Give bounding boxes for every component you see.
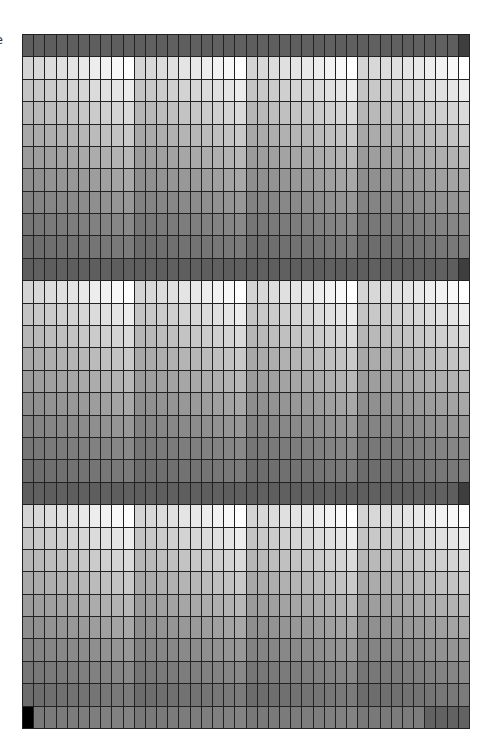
grid-cell	[191, 617, 201, 638]
grid-cell	[34, 662, 44, 683]
grid-cell	[414, 416, 424, 437]
grid-cell	[235, 35, 245, 56]
grid-cell	[403, 214, 413, 235]
grid-cell	[403, 662, 413, 683]
grid-cell	[135, 550, 145, 571]
grid-cell	[358, 617, 368, 638]
grid-cell	[436, 80, 446, 101]
grid-cell	[23, 35, 33, 56]
grid-cell	[336, 125, 346, 146]
grid-cell	[414, 617, 424, 638]
grid-cell	[213, 550, 223, 571]
grid-cell	[57, 617, 67, 638]
grid-cell	[135, 259, 145, 280]
grid-cell	[291, 371, 301, 392]
grid-cell	[157, 684, 167, 705]
grid-cell	[448, 483, 458, 504]
grid-cell	[302, 460, 312, 481]
grid-cell	[157, 125, 167, 146]
grid-cell	[179, 80, 189, 101]
grid-cell	[146, 639, 156, 660]
grid-cell	[302, 572, 312, 593]
grid-cell	[302, 326, 312, 347]
grid-cell	[358, 550, 368, 571]
grid-cell	[459, 35, 469, 56]
grid-cell	[347, 348, 357, 369]
grid-cell	[202, 102, 212, 123]
grid-cell	[124, 147, 134, 168]
grid-cell	[79, 371, 89, 392]
grid-cell	[68, 505, 78, 526]
grid-cell	[168, 102, 178, 123]
grid-cell	[347, 192, 357, 213]
grid-cell	[291, 326, 301, 347]
grid-cell	[90, 192, 100, 213]
grid-cell	[135, 416, 145, 437]
grid-cell	[224, 326, 234, 347]
grid-cell	[57, 147, 67, 168]
grid-cell	[258, 483, 268, 504]
grid-cell	[436, 348, 446, 369]
grid-cell	[369, 416, 379, 437]
grid-cell	[403, 460, 413, 481]
grid-cell	[224, 528, 234, 549]
grid-cell	[392, 572, 402, 593]
grid-cell	[79, 393, 89, 414]
grid-cell	[336, 595, 346, 616]
grid-cell	[57, 214, 67, 235]
grid-cell	[403, 639, 413, 660]
grid-cell	[436, 192, 446, 213]
grid-cell	[23, 192, 33, 213]
grid-cell	[325, 662, 335, 683]
grid-cell	[34, 214, 44, 235]
grid-cell	[347, 572, 357, 593]
grid-cell	[358, 528, 368, 549]
grid-cell	[90, 595, 100, 616]
grid-cell	[403, 236, 413, 257]
grid-cell	[179, 572, 189, 593]
grid-cell	[269, 214, 279, 235]
grid-cell	[247, 639, 257, 660]
grid-cell	[280, 393, 290, 414]
grid-cell	[124, 595, 134, 616]
grid-cell	[90, 35, 100, 56]
grid-cell	[403, 572, 413, 593]
grid-cell	[347, 35, 357, 56]
grid-cell	[459, 438, 469, 459]
grid-cell	[57, 35, 67, 56]
grid-cell	[314, 147, 324, 168]
grid-cell	[392, 236, 402, 257]
grid-cell	[235, 281, 245, 302]
grid-cell	[403, 35, 413, 56]
grid-cell	[247, 617, 257, 638]
grid-cell	[336, 236, 346, 257]
grid-cell	[414, 57, 424, 78]
grid-cell	[34, 326, 44, 347]
grid-cell	[269, 348, 279, 369]
grid-cell	[436, 595, 446, 616]
grid-cell	[347, 617, 357, 638]
grid-cell	[45, 192, 55, 213]
grid-cell	[414, 684, 424, 705]
grid-cell	[224, 35, 234, 56]
grid-cell	[269, 192, 279, 213]
grid-cell	[79, 438, 89, 459]
grid-cell	[269, 617, 279, 638]
grid-cell	[347, 259, 357, 280]
grid-cell	[403, 102, 413, 123]
grid-cell	[302, 662, 312, 683]
grid-cell	[358, 147, 368, 168]
grid-cell	[459, 662, 469, 683]
grid-cell	[90, 125, 100, 146]
grid-cell	[112, 416, 122, 437]
grid-cell	[436, 236, 446, 257]
grid-cell	[247, 326, 257, 347]
grid-cell	[57, 707, 67, 728]
grid-cell	[302, 684, 312, 705]
grid-cell	[101, 214, 111, 235]
grid-cell	[90, 639, 100, 660]
grid-cell	[369, 304, 379, 325]
grid-cell	[68, 438, 78, 459]
grid-cell	[403, 438, 413, 459]
grid-cell	[101, 259, 111, 280]
